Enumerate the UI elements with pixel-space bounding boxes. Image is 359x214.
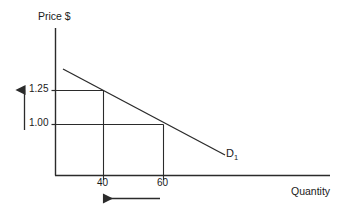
chart-vector-layer (0, 0, 359, 214)
demand-curve-label-text: D (226, 147, 234, 159)
chart-canvas: Price $ Quantity 1.25 1.00 40 60 D1 (0, 0, 359, 214)
x-tick-label-60: 60 (157, 178, 168, 188)
x-axis-title: Quantity (291, 186, 330, 197)
y-tick-label-100: 1.00 (29, 118, 48, 128)
demand-curve-line (63, 69, 225, 155)
y-tick-label-125: 1.25 (29, 84, 48, 94)
demand-curve-label: D1 (226, 148, 238, 159)
y-axis-title: Price $ (38, 11, 71, 22)
demand-curve-figure: Price $ Quantity 1.25 1.00 40 60 D1 (0, 0, 359, 214)
x-tick-label-40: 40 (97, 178, 108, 188)
demand-curve-label-subscript: 1 (234, 153, 238, 162)
